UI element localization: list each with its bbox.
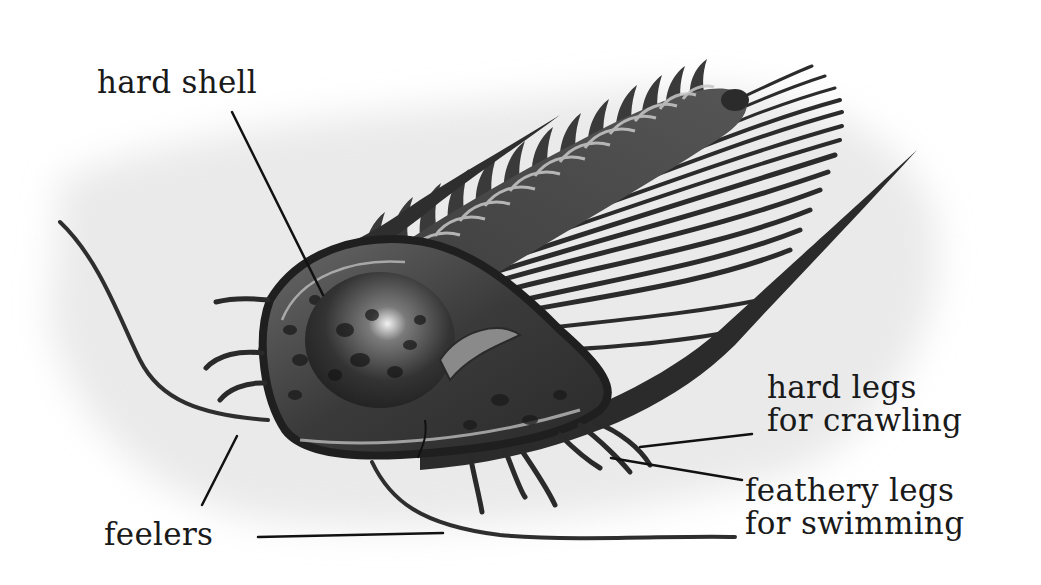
label-hard-shell-line-1: hard shell: [97, 66, 257, 99]
label-feathery-legs-line-1: feathery legs: [745, 474, 964, 507]
label-feathery-legs-line-2: for swimming: [745, 507, 964, 540]
pygidium: [721, 89, 749, 111]
trilobite-diagram: hard shell hard legs for crawling feathe…: [0, 0, 1041, 585]
label-hard-legs: hard legs for crawling: [767, 371, 962, 437]
glabella: [305, 272, 455, 408]
label-hard-legs-line-1: hard legs: [767, 371, 962, 404]
label-feathery-legs: feathery legs for swimming: [745, 474, 964, 540]
label-feelers-line-1: feelers: [104, 518, 213, 551]
label-hard-shell: hard shell: [97, 66, 257, 99]
label-hard-legs-line-2: for crawling: [767, 404, 962, 437]
label-feelers: feelers: [104, 518, 213, 551]
leader-feelers-lower: [258, 533, 443, 537]
